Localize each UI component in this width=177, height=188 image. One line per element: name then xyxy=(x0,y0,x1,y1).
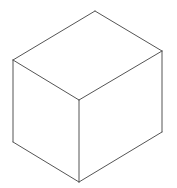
cube-diagram xyxy=(0,0,177,188)
